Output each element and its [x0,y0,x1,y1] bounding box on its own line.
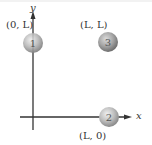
particle-1-number: 1 [30,38,36,49]
particle-3-number: 3 [105,37,111,48]
particle-3-coordinate-label: (L, L) [80,20,107,30]
x-axis-label: x [136,111,142,121]
particle-2: 2 [99,107,119,127]
particle-2-number: 2 [106,112,112,123]
particle-1-coordinate-label: (0, L) [6,20,33,30]
particle-2-coordinate-label: (L, 0) [79,131,106,141]
x-axis-arrowhead-icon [124,115,132,120]
particle-1: 1 [23,33,43,53]
y-axis-label: y [30,3,36,13]
particle-3: 3 [98,32,118,52]
